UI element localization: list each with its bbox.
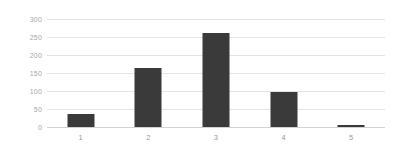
x-tick-label: 1 <box>47 133 115 142</box>
bar <box>338 125 365 127</box>
bar-slot <box>115 19 183 127</box>
y-tick-label: 300 <box>4 16 42 23</box>
y-tick-label: 100 <box>4 88 42 95</box>
x-tick-label: 4 <box>250 133 318 142</box>
bar <box>202 33 229 127</box>
bar <box>270 92 297 127</box>
y-tick-label: 50 <box>4 106 42 113</box>
bars-layer <box>47 19 385 127</box>
y-tick-label: 200 <box>4 52 42 59</box>
x-tick-label: 5 <box>317 133 385 142</box>
y-tick-label: 150 <box>4 70 42 77</box>
bar-slot <box>182 19 250 127</box>
x-tick-label: 2 <box>115 133 183 142</box>
y-tick-label: 0 <box>4 124 42 131</box>
bar <box>135 68 162 127</box>
x-axis: 12345 <box>47 133 385 149</box>
bar-slot <box>250 19 318 127</box>
bar-slot <box>317 19 385 127</box>
gridline-0 <box>47 127 385 128</box>
bar <box>67 114 94 127</box>
bar-slot <box>47 19 115 127</box>
y-tick-label: 250 <box>4 34 42 41</box>
bar-chart-figure: 050100150200250300 12345 <box>0 0 401 164</box>
x-tick-label: 3 <box>182 133 250 142</box>
